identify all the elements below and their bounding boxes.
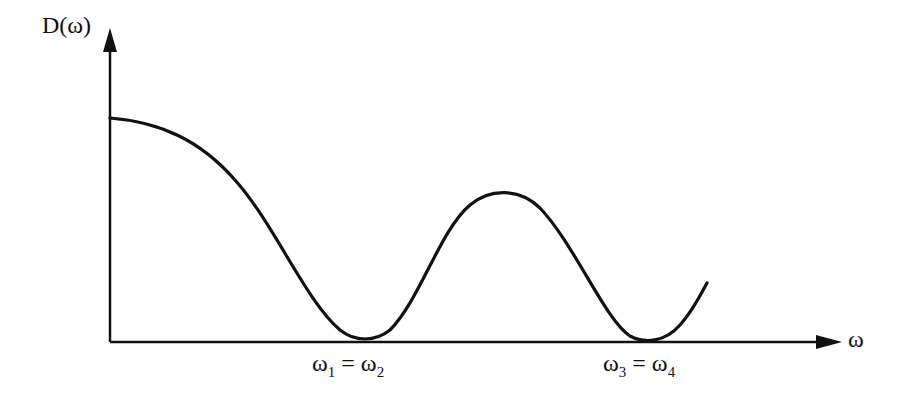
y-axis-label: D(ω) bbox=[42, 12, 91, 39]
x-axis-arrow-icon bbox=[816, 335, 842, 349]
chart-canvas bbox=[0, 0, 909, 394]
tick-label-omega1-omega2: ω1 = ω2 bbox=[312, 350, 384, 381]
tick-sub: 2 bbox=[377, 364, 385, 380]
tick-equals: = bbox=[335, 350, 361, 376]
tick-sub: 4 bbox=[668, 364, 676, 380]
tick-omega: ω bbox=[603, 350, 619, 376]
tick-equals: = bbox=[626, 350, 652, 376]
tick-omega: ω bbox=[312, 350, 328, 376]
tick-label-omega3-omega4: ω3 = ω4 bbox=[603, 350, 675, 381]
y-axis-arrow-icon bbox=[103, 28, 117, 52]
tick-omega: ω bbox=[652, 350, 668, 376]
x-axis-label: ω bbox=[848, 326, 864, 353]
tick-omega: ω bbox=[361, 350, 377, 376]
d-omega-curve bbox=[110, 118, 707, 341]
